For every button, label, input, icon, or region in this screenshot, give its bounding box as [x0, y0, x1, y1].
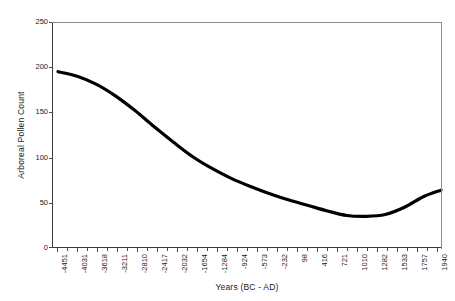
x-axis-title: Years (BC - AD) — [52, 282, 442, 292]
arboreal-pollen-count-chart: Arboreal Pollen Count 250200150100500 -4… — [0, 0, 455, 301]
x-axis-tick-labels: -4451-4031-3618-3211-2810-2417-2032-1654… — [0, 0, 455, 301]
